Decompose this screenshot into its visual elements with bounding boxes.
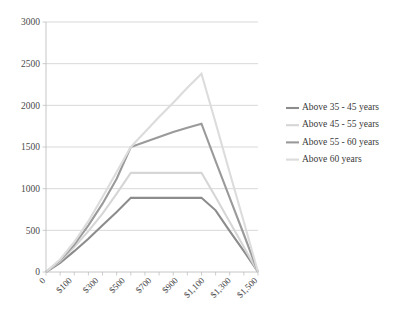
x-tick-label: $500 [107, 275, 127, 295]
legend-label-1: Above 45 - 55 years [302, 119, 379, 129]
data-series [46, 74, 258, 272]
legend-label-0: Above 35 - 45 years [302, 102, 379, 112]
x-tick-label: $700 [134, 275, 154, 295]
x-tick-label: $1,300 [208, 275, 233, 300]
series-line-0 [46, 198, 258, 272]
x-tick-label: $300 [81, 275, 101, 295]
y-axis-labels: 050010001500200025003000 [21, 17, 40, 277]
legend-label-2: Above 55 - 60 years [302, 137, 379, 147]
gridlines [46, 22, 258, 230]
chart-legend: Above 35 - 45 yearsAbove 45 - 55 yearsAb… [286, 102, 379, 164]
x-tick-label: $1,500 [235, 275, 260, 300]
y-tick-label: 3000 [21, 17, 40, 27]
y-tick-label: 2000 [21, 101, 40, 111]
legend-label-3: Above 60 years [302, 154, 362, 164]
y-axis-ticks [43, 22, 47, 272]
x-tick-label: $1,100 [182, 275, 207, 300]
chart-canvas: 050010001500200025003000 0$100$300$500$7… [0, 0, 393, 327]
line-chart: 050010001500200025003000 0$100$300$500$7… [0, 0, 393, 327]
y-tick-label: 1000 [21, 184, 40, 194]
y-tick-label: 2500 [21, 59, 40, 69]
x-axis-labels: 0$100$300$500$700$900$1,100$1,300$1,500 [37, 275, 260, 300]
x-tick-label: $100 [54, 275, 74, 295]
x-tick-label: $900 [160, 275, 180, 295]
y-tick-label: 500 [26, 226, 41, 236]
x-tick-label: 0 [37, 275, 48, 286]
x-axis-ticks [46, 272, 258, 276]
y-tick-label: 1500 [21, 142, 40, 152]
